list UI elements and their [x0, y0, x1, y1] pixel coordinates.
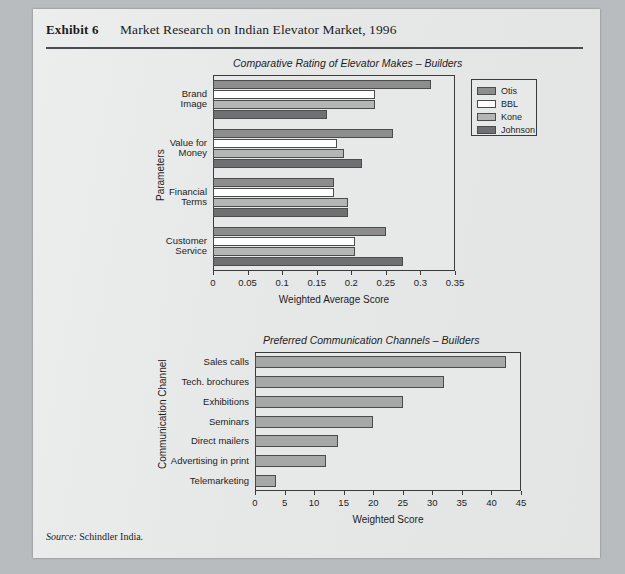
category-label: BrandImage	[127, 89, 207, 110]
legend-swatch-icon	[477, 126, 496, 134]
legend-item: BBL	[477, 97, 536, 110]
axis-tick	[285, 491, 286, 495]
bar-kone-1	[213, 149, 344, 158]
axis-tick	[521, 491, 522, 495]
bar-otis-0	[213, 80, 431, 89]
bar-channel-2	[255, 396, 403, 408]
legend-label: Otis	[501, 86, 517, 96]
axis-tick	[282, 271, 283, 275]
category-label: Exhibitions	[131, 397, 249, 408]
exhibit-title: Market Research on Indian Elevator Marke…	[120, 22, 396, 38]
bar-johnson-1	[213, 159, 362, 168]
legend-label: Kone	[501, 112, 522, 122]
axis-tick-label: 0.35	[435, 277, 475, 288]
bar-otis-2	[213, 178, 334, 187]
bar-otis-3	[213, 227, 386, 236]
source-text: Schindler India.	[79, 531, 143, 542]
bar-johnson-3	[213, 257, 403, 266]
legend-label: BBL	[501, 99, 518, 109]
legend-label: Johnson	[501, 125, 535, 135]
legend-swatch-icon	[477, 87, 496, 95]
bar-channel-6	[255, 475, 276, 487]
category-label: Sales calls	[131, 357, 249, 368]
axis-tick-label: 45	[501, 497, 541, 508]
bar-channel-5	[255, 455, 326, 467]
bar-kone-2	[213, 198, 348, 207]
category-label: Tech. brochures	[131, 377, 249, 388]
category-label: Advertising in print	[131, 456, 249, 467]
category-label-line: Terms	[127, 197, 207, 208]
page-content: Exhibit 6 Market Research on Indian Elev…	[33, 9, 600, 558]
legend-swatch-icon	[477, 113, 496, 121]
bar-bbl-1	[213, 139, 337, 148]
legend-item: Otis	[477, 84, 536, 97]
source-note: Source: Schindler India.	[46, 531, 143, 542]
chart2-x-axis-title: Weighted Score	[255, 514, 521, 525]
exhibit-header: Exhibit 6 Market Research on Indian Elev…	[46, 20, 581, 46]
axis-tick	[317, 271, 318, 275]
bar-otis-1	[213, 129, 393, 138]
category-label-line: Service	[127, 246, 207, 257]
axis-tick	[351, 271, 352, 275]
category-label-line: Image	[127, 99, 207, 110]
category-label: Direct mailers	[131, 436, 249, 447]
axis-tick	[386, 271, 387, 275]
axis-tick	[432, 491, 433, 495]
chart1-y-axis-title: Parameters	[155, 149, 166, 201]
category-label: CustomerService	[127, 236, 207, 257]
axis-tick	[213, 271, 214, 275]
exhibit-label: Exhibit 6	[46, 22, 99, 38]
axis-tick	[255, 491, 256, 495]
category-label: Telemarketing	[131, 476, 249, 487]
category-label: Value forMoney	[127, 138, 207, 159]
bar-bbl-2	[213, 188, 334, 197]
legend-swatch-icon	[477, 100, 496, 108]
chart2-y-axis-title: Communication Channel	[157, 359, 168, 469]
axis-tick	[344, 491, 345, 495]
legend-item: Johnson	[477, 123, 536, 136]
bar-channel-1	[255, 376, 444, 388]
axis-tick	[491, 491, 492, 495]
axis-tick	[373, 491, 374, 495]
exhibit-page: Exhibit 6 Market Research on Indian Elev…	[33, 9, 600, 558]
chart2-title: Preferred Communication Channels – Build…	[263, 334, 480, 346]
category-label: FinancialTerms	[127, 187, 207, 208]
bar-kone-0	[213, 100, 375, 109]
category-label-line: Money	[127, 148, 207, 159]
bar-bbl-3	[213, 237, 355, 246]
bar-channel-3	[255, 416, 373, 428]
chart1-legend: OtisBBLKoneJohnson	[471, 79, 537, 136]
bar-johnson-0	[213, 110, 327, 119]
bar-channel-0	[255, 356, 506, 368]
axis-tick	[248, 271, 249, 275]
axis-tick	[462, 491, 463, 495]
axis-tick	[455, 271, 456, 275]
bar-kone-3	[213, 247, 355, 256]
chart1-title: Comparative Rating of Elevator Makes – B…	[233, 57, 462, 69]
axis-tick	[314, 491, 315, 495]
source-label: Source:	[46, 531, 77, 542]
bar-bbl-0	[213, 90, 375, 99]
header-divider	[46, 47, 583, 49]
bar-channel-4	[255, 435, 338, 447]
legend-item: Kone	[477, 110, 536, 123]
bar-johnson-2	[213, 208, 348, 217]
axis-tick	[403, 491, 404, 495]
axis-tick	[420, 271, 421, 275]
category-label: Seminars	[131, 417, 249, 428]
chart1-x-axis-title: Weighted Average Score	[213, 294, 455, 305]
